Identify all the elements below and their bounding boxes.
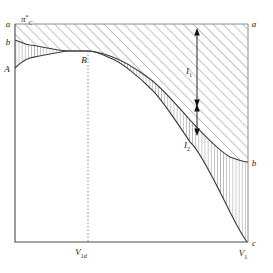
label-c-bottom-right: c [252, 238, 256, 248]
interval-1-sub: 1 [189, 72, 192, 78]
x-tick-label-v1d: V1d [75, 247, 88, 259]
label-a-top-right: a [252, 19, 257, 29]
svg-text:V1d: V1d [75, 247, 88, 259]
svg-text:V1: V1 [239, 248, 248, 260]
x-tick-v1d-sub: 1d [81, 253, 88, 259]
figure-container: π*C V1d V1 a a b b A B c I1 I2 [0, 0, 273, 273]
label-B-peak: B [81, 55, 87, 65]
label-b-left: b [6, 37, 11, 47]
x-tick-v1-sub: 1 [244, 254, 247, 260]
interval-2-sub: 2 [187, 146, 190, 152]
label-b-right: b [252, 158, 257, 168]
label-A-left: A [3, 64, 10, 74]
label-a-top-left: a [6, 19, 11, 29]
x-tick-label-v1: V1 [239, 248, 248, 260]
economics-plot: π*C V1d V1 a a b b A B c I1 I2 [0, 0, 273, 273]
